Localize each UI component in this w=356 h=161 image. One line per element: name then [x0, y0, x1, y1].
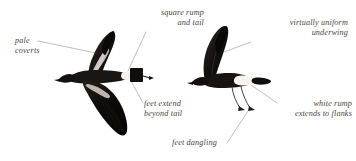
right-bird-foot-left [238, 106, 245, 111]
leader-pale-coverts [38, 41, 96, 53]
right-bird-legs [232, 87, 250, 108]
right-bird-foot-right [248, 106, 255, 111]
illustration-plate: pale coverts square rump and tail virtua… [0, 0, 356, 161]
left-bird-tail [130, 68, 143, 82]
left-bird-feet [143, 76, 150, 78]
leader-feet-extend [130, 79, 143, 103]
label-white-rump-extends-to-flanks: white rump extends to flanks [264, 99, 352, 120]
leader-virtually-uniform [224, 42, 251, 52]
leader-square-rump [128, 32, 146, 71]
label-feet-dangling: feet dangling [172, 138, 217, 148]
left-bird-bill [54, 79, 60, 82]
right-bird-tail [252, 78, 271, 85]
leader-feet-dangling [227, 111, 248, 143]
label-feet-extend-beyond-tail: feet extend beyond tail [144, 99, 182, 120]
right-bird-bill [187, 82, 193, 85]
left-bird-foot-tip [149, 76, 154, 80]
label-square-rump-and-tail: square rump and tail [122, 8, 204, 29]
label-virtually-uniform-underwing: virtually uniform underwing [252, 18, 348, 39]
right-bird-head [192, 77, 208, 86]
label-pale-coverts: pale coverts [15, 36, 40, 57]
left-bird-body [68, 70, 130, 84]
